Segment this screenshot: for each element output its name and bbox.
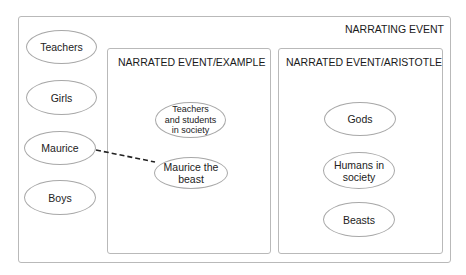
narrating-event-title: NARRATING EVENT (345, 23, 444, 35)
node-gods: Gods (324, 102, 396, 136)
node-humans-in-society: Humans in society (323, 152, 395, 189)
node-boys: Boys (24, 180, 96, 215)
node-maurice: Maurice (24, 131, 96, 165)
narrated-event-aristotle-title: NARRATED EVENT/ARISTOTLE (286, 56, 442, 68)
node-teachers-and-students: Teachers and students in society (155, 102, 226, 138)
node-girls: Girls (26, 80, 97, 115)
node-beasts: Beasts (323, 202, 395, 237)
narrated-event-example-box (107, 48, 271, 254)
node-maurice-the-beast: Maurice the beast (154, 157, 228, 189)
node-teachers: Teachers (26, 30, 97, 64)
narrated-event-example-title: NARRATED EVENT/EXAMPLE (118, 56, 265, 68)
